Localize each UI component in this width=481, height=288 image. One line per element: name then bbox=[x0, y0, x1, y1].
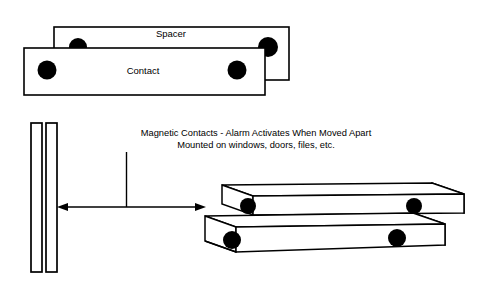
contact-bar-3d-front-face bbox=[236, 224, 445, 252]
contact-label: Contact bbox=[127, 65, 160, 76]
contact-bar-3d-magnet-left bbox=[223, 231, 241, 249]
caption-line-1: Magnetic Contacts - Alarm Activates When… bbox=[141, 128, 372, 138]
separation-gap-arrow bbox=[57, 203, 206, 211]
caption-line-2: Mounted on windows, doors, files, etc. bbox=[177, 140, 335, 150]
diagram-canvas: Spacer Contact Magnetic Contacts - Alarm… bbox=[0, 0, 481, 288]
caption-group: Magnetic Contacts - Alarm Activates When… bbox=[141, 128, 372, 150]
contact-bar-3d-magnet-right bbox=[388, 229, 406, 247]
spacer-bar-3d-magnet-right bbox=[406, 198, 422, 214]
spacer-bar-3d-front-face bbox=[253, 194, 464, 215]
separation-arrow-head-right bbox=[195, 203, 206, 211]
spacer-bar-3d bbox=[222, 183, 464, 215]
magnetic-contacts-diagram: Spacer Contact Magnetic Contacts - Alarm… bbox=[0, 0, 481, 288]
mounting-plate-outer bbox=[31, 123, 42, 272]
mounting-plates-group bbox=[31, 123, 57, 272]
contact-magnet-dot-left bbox=[38, 61, 57, 80]
contact-magnet-dot-right bbox=[228, 61, 247, 80]
separation-arrow-head-left bbox=[57, 203, 68, 211]
mounting-plate-inner bbox=[46, 123, 57, 272]
spacer-label: Spacer bbox=[156, 28, 186, 39]
spacer-bar-3d-magnet-left bbox=[240, 198, 256, 214]
contact-bar-3d bbox=[205, 213, 445, 252]
plan-view-group: Spacer Contact bbox=[24, 27, 289, 95]
perspective-view-group bbox=[205, 183, 464, 252]
